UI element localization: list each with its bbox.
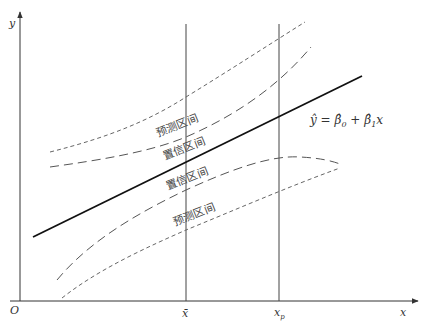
upper-prediction-band [50, 22, 305, 152]
lower-prediction-band [62, 168, 340, 298]
regression-interval-diagram: 预测区间 置信区间 置信区间 预测区间 ŷ = β̂0 + β̂1x y x O… [0, 0, 424, 325]
xp-label: xp [274, 306, 285, 321]
upper-prediction-label: 预测区间 [154, 111, 200, 140]
y-axis-label: y [8, 17, 16, 30]
upper-confidence-label: 置信区间 [161, 134, 207, 163]
regression-equation: ŷ = β̂0 + β̂1x [309, 113, 383, 129]
xbar-label: x̄ [182, 307, 189, 320]
lower-prediction-label: 预测区间 [171, 200, 217, 229]
x-axis-label: x [400, 306, 407, 319]
origin-label: O [10, 304, 19, 317]
